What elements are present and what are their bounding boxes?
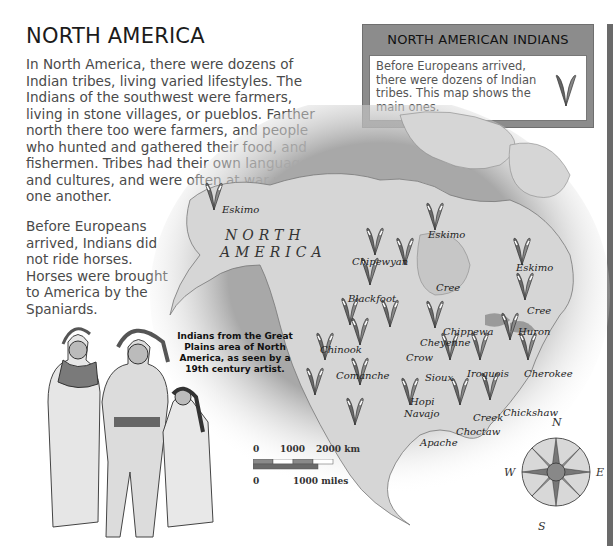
tribe-label-cherokee: Cherokee xyxy=(524,368,573,379)
tribe-label-iroquois: Iroquois xyxy=(467,368,509,379)
tribe-label-hopi: Hopi xyxy=(410,396,434,407)
tribe-label-cree-west: Cree xyxy=(436,282,460,293)
tribe-label-blackfoot: Blackfoot xyxy=(348,293,396,304)
region-label-america: AMERICA xyxy=(218,244,327,260)
scale-km-2000: 2000 km xyxy=(316,444,360,454)
tribe-label-eskimo-alaska: Eskimo xyxy=(222,204,259,215)
compass-west: W xyxy=(504,466,515,479)
tribe-label-navajo: Navajo xyxy=(404,408,439,419)
scale-mi-0: 0 xyxy=(253,476,259,486)
scale-bar: 0 1000 2000 km 0 1000 miles xyxy=(253,444,363,494)
info-box-title: NORTH AMERICAN INDIANS xyxy=(363,32,593,47)
tribe-label-apache: Apache xyxy=(420,437,458,448)
tribe-label-chipewyan: Chipewyan xyxy=(352,256,408,267)
region-label-north: NORTH xyxy=(224,227,306,243)
page-title: NORTH AMERICA xyxy=(26,24,205,48)
tribe-label-cheyenne: Cheyenne xyxy=(420,337,470,348)
compass-north: N xyxy=(552,416,562,429)
tribe-label-sioux: Sioux xyxy=(425,372,453,383)
feather-icon xyxy=(554,74,578,108)
tribe-label-cree-east: Cree xyxy=(527,305,551,316)
compass-rose-icon xyxy=(510,412,602,532)
tribe-label-crow: Crow xyxy=(406,352,433,363)
compass-rose: N S E W xyxy=(510,412,602,536)
tribe-label-huron: Huron xyxy=(518,326,550,337)
tribe-label-choctaw: Choctaw xyxy=(456,426,500,437)
scale-km-1000: 1000 xyxy=(280,444,305,454)
tribe-label-creek: Creek xyxy=(473,412,503,423)
compass-east: E xyxy=(596,466,604,479)
tribe-label-chinook: Chinook xyxy=(320,344,362,355)
compass-south: S xyxy=(538,520,546,533)
tribe-label-eskimo-east: Eskimo xyxy=(516,262,553,273)
tribe-label-chippewa: Chippewa xyxy=(443,326,494,337)
scale-bar-graphic xyxy=(253,459,343,471)
illustration-caption: Indians from the Great Plains area of No… xyxy=(170,331,300,375)
tribe-label-comanche: Comanche xyxy=(336,370,390,381)
scale-km-0: 0 xyxy=(253,444,259,454)
scale-mi-1000: 1000 miles xyxy=(293,476,348,486)
tribe-label-eskimo-north: Eskimo xyxy=(428,229,465,240)
